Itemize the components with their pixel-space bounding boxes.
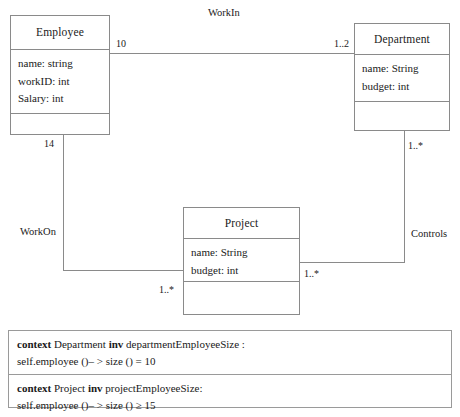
- ocl-context-keyword: context: [17, 338, 51, 350]
- class-attributes-compartment-employee: name: string workID: int Salary: int: [11, 49, 109, 113]
- ocl-inv-keyword: inv: [109, 338, 124, 350]
- uml-class-employee[interactable]: Employee name: string workID: int Salary…: [10, 15, 110, 135]
- ocl-expression: self.employee ()– > size () ≥ 15: [17, 397, 443, 414]
- ocl-invariant-name: departmentEmployeeSize :: [126, 338, 245, 350]
- multiplicity-department-workin: 1..2: [334, 38, 349, 49]
- class-attribute: budget: int: [362, 78, 442, 96]
- association-line-workon-horizontal: [63, 270, 183, 271]
- ocl-invariant-name: projectEmployeeSize:: [105, 382, 202, 394]
- class-attributes-compartment-project: name: String budget: int: [184, 238, 299, 281]
- association-line-controls-horizontal: [300, 262, 405, 263]
- class-operations-compartment-project: [184, 281, 299, 314]
- multiplicity-employee-workin: 10: [116, 38, 126, 49]
- association-label-controls: Controls: [411, 228, 447, 240]
- multiplicity-department-controls: 1..*: [408, 140, 423, 151]
- association-line-workin: [110, 53, 354, 54]
- class-name-project: Project: [225, 217, 259, 230]
- class-name-compartment-project: Project: [184, 208, 299, 238]
- multiplicity-employee-workon: 14: [44, 138, 54, 149]
- class-attribute: name: String: [191, 244, 292, 262]
- class-attribute: workID: int: [18, 73, 102, 91]
- uml-class-project[interactable]: Project name: String budget: int: [183, 207, 300, 315]
- ocl-expression: self.employee ()– > size () = 10: [17, 353, 443, 370]
- ocl-context-type: Project: [54, 382, 85, 394]
- class-attributes-compartment-department: name: String budget: int: [355, 54, 449, 101]
- class-operations-compartment-employee: [11, 113, 109, 134]
- association-label-workon: WorkOn: [20, 226, 56, 238]
- ocl-context-type: Department: [54, 338, 106, 350]
- class-attribute: name: string: [18, 55, 102, 73]
- ocl-context-keyword: context: [17, 382, 51, 394]
- ocl-constraint: context Project inv projectEmployeeSize:…: [9, 374, 451, 417]
- ocl-inv-keyword: inv: [88, 382, 103, 394]
- association-line-controls-vertical: [404, 131, 405, 263]
- ocl-constraint-box: context Department inv departmentEmploye…: [8, 330, 452, 408]
- ocl-context-line: context Department inv departmentEmploye…: [17, 336, 443, 353]
- class-operations-compartment-department: [355, 101, 449, 130]
- class-attribute: name: String: [362, 60, 442, 78]
- uml-class-department[interactable]: Department name: String budget: int: [354, 23, 450, 131]
- class-attribute: Salary: int: [18, 90, 102, 108]
- class-name-compartment-employee: Employee: [11, 16, 109, 49]
- association-label-workin: WorkIn: [208, 7, 240, 19]
- class-name-department: Department: [374, 33, 430, 46]
- multiplicity-project-controls: 1..*: [304, 268, 319, 279]
- class-name-compartment-department: Department: [355, 24, 449, 54]
- class-name-employee: Employee: [36, 26, 84, 39]
- association-line-workon-vertical: [63, 135, 64, 271]
- multiplicity-project-workon: 1..*: [159, 284, 174, 295]
- class-attribute: budget: int: [191, 262, 292, 280]
- ocl-constraint: context Department inv departmentEmploye…: [9, 331, 451, 374]
- ocl-context-line: context Project inv projectEmployeeSize:: [17, 380, 443, 397]
